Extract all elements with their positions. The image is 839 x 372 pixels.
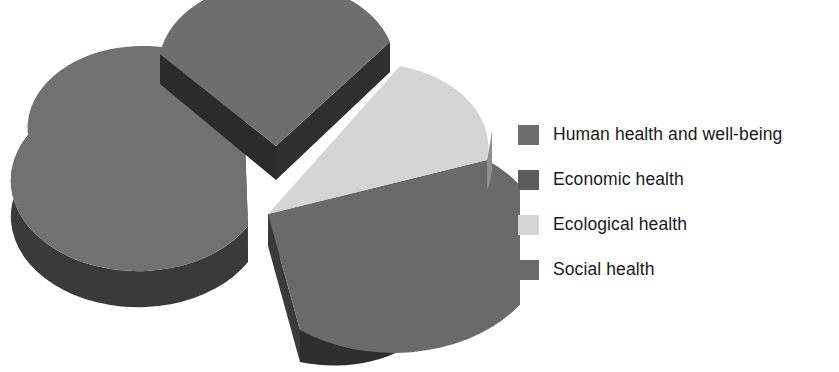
- legend-item-economic-health[interactable]: Economic health: [518, 157, 838, 202]
- legend-item-ecological-health[interactable]: Ecological health: [518, 202, 838, 247]
- legend-item-social-health[interactable]: Social health: [518, 247, 838, 292]
- chart-legend: Human health and well-being Economic hea…: [518, 112, 838, 292]
- legend-label-human-health: Human health and well-being: [553, 126, 782, 144]
- legend-swatch-ecological-health: [518, 215, 539, 235]
- pie-chart-figure: Human health and well-being Economic hea…: [0, 0, 839, 372]
- legend-swatch-social-health: [518, 260, 539, 280]
- legend-swatch-human-health: [518, 125, 539, 145]
- pie-chart-graphic: [0, 0, 520, 372]
- legend-label-ecological-health: Ecological health: [553, 216, 687, 234]
- legend-label-social-health: Social health: [553, 261, 655, 279]
- legend-label-economic-health: Economic health: [553, 171, 684, 189]
- legend-swatch-economic-health: [518, 170, 539, 190]
- legend-item-human-health[interactable]: Human health and well-being: [518, 112, 838, 157]
